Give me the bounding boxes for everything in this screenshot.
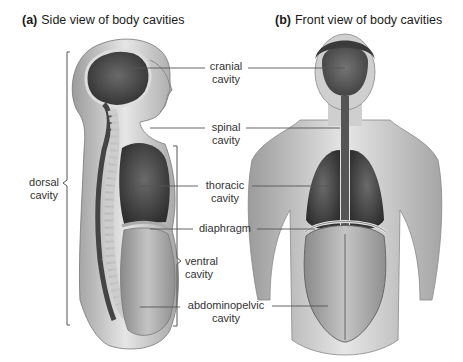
label-dorsal-cavity: dorsal cavity (26, 176, 62, 202)
label-line: cavity (185, 268, 218, 281)
label-line: spinal (206, 121, 246, 134)
label-spinal-cavity: spinal cavity (206, 121, 246, 147)
label-line: cavity (206, 73, 246, 86)
label-line: ventral (185, 255, 218, 268)
label-ventral-cavity: ventral cavity (185, 255, 218, 281)
label-line: cranial (206, 60, 246, 73)
label-line: thoracic (200, 179, 250, 192)
label-line: dorsal (26, 176, 62, 189)
label-line: diaphragm (194, 222, 256, 235)
label-thoracic-cavity: thoracic cavity (200, 179, 250, 205)
side-view-figure (72, 39, 178, 349)
label-line: abdominopelvic (182, 299, 270, 312)
label-line: cavity (182, 312, 270, 325)
label-cranial-cavity: cranial cavity (206, 60, 246, 86)
label-diaphragm: diaphragm (194, 222, 256, 235)
label-line: cavity (206, 134, 246, 147)
front-view-figure (248, 34, 442, 355)
dorsal-bracket (63, 52, 70, 325)
label-abdominopelvic-cavity: abdominopelvic cavity (182, 299, 270, 325)
label-line: cavity (26, 189, 62, 202)
label-line: cavity (200, 192, 250, 205)
